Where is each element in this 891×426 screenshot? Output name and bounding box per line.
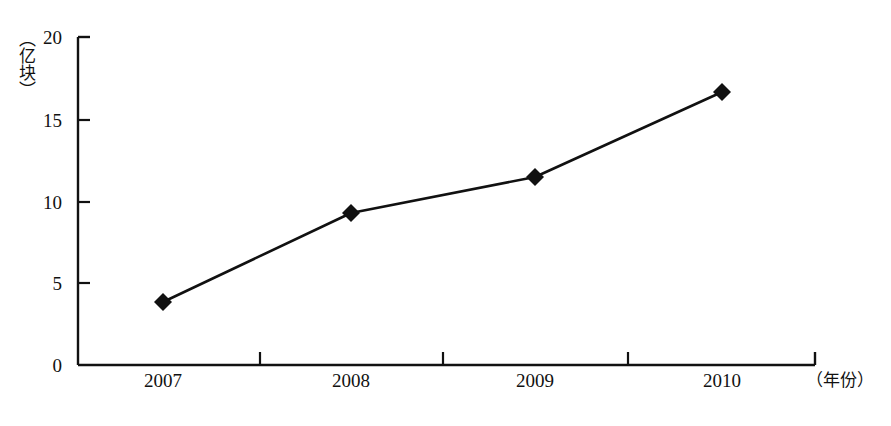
data-point-marker-2008 — [342, 204, 360, 222]
data-point-marker-2010 — [713, 83, 731, 101]
data-point-marker-2007 — [154, 293, 172, 311]
axis-lines — [78, 37, 815, 365]
y-axis-ticks — [78, 120, 90, 283]
line-chart: （亿块） 20 15 10 5 0 2007 2008 2009 2010 （年… — [0, 0, 891, 426]
x-axis-ticks — [260, 352, 628, 365]
data-point-markers — [154, 83, 731, 311]
chart-plot-area — [0, 0, 891, 426]
data-line-series — [163, 92, 722, 302]
data-point-marker-2009 — [526, 168, 544, 186]
